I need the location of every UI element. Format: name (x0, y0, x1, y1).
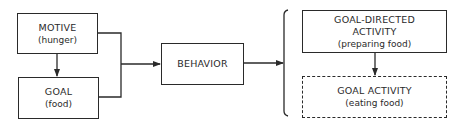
goal-activity-box: GOAL ACTIVITY (eating food) (302, 76, 447, 118)
diagram-canvas: MOTIVE (hunger) GOAL (food) BEHAVIOR GOA… (0, 0, 463, 126)
goal-directed-activity-box: GOAL-DIRECTED ACTIVITY (preparing food) (302, 10, 447, 53)
goal-subtitle: (food) (45, 98, 72, 110)
behavior-box: BEHAVIOR (161, 43, 244, 85)
motive-subtitle: (hunger) (38, 34, 77, 46)
gda-title-line1: GOAL-DIRECTED (334, 14, 415, 26)
goal-box: GOAL (food) (18, 77, 99, 119)
gda-subtitle: (preparing food) (338, 38, 411, 50)
merge-connector (97, 33, 121, 97)
goal-activity-subtitle: (eating food) (345, 97, 403, 109)
motive-box: MOTIVE (hunger) (17, 13, 98, 54)
motive-title: MOTIVE (39, 22, 77, 34)
gda-title-line2: ACTIVITY (352, 26, 396, 38)
goal-title: GOAL (45, 86, 72, 98)
bracket (284, 10, 288, 116)
behavior-title: BEHAVIOR (177, 58, 228, 70)
goal-activity-title: GOAL ACTIVITY (337, 85, 412, 97)
